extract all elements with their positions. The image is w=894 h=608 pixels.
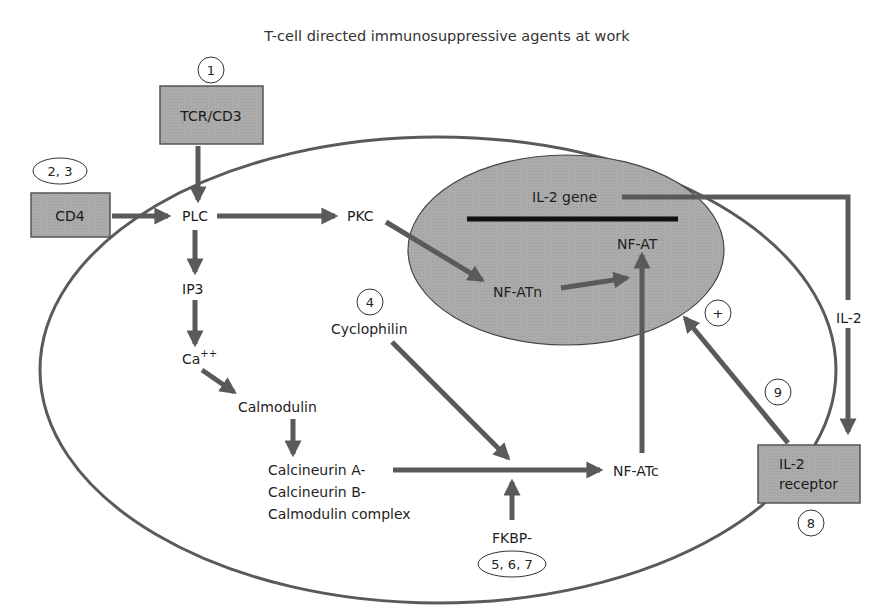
node-ca: Ca++ [182, 348, 217, 367]
svg-text:1: 1 [207, 63, 215, 78]
svg-text:5, 6, 7: 5, 6, 7 [491, 557, 532, 572]
node-calcineurin-3: Calmodulin complex [268, 506, 411, 522]
immunosuppression-pathway-diagram: T-cell directed immunosuppressive agents… [0, 0, 894, 608]
node-fkbp: FKBP- [492, 530, 532, 546]
il2-receptor-box: IL-2 receptor [758, 445, 860, 503]
node-nfatn: NF-ATn [493, 284, 542, 300]
tcr-cd3-box: TCR/CD3 [160, 86, 263, 144]
node-ca-superscript: ++ [200, 348, 217, 359]
svg-text:+: + [713, 306, 724, 321]
cd4-label: CD4 [55, 208, 85, 224]
il2-receptor-label-1: IL-2 [779, 456, 805, 472]
cd4-box: CD4 [31, 193, 110, 237]
arrow-cyclophilin-to-complex [392, 342, 508, 458]
node-calmodulin: Calmodulin [238, 399, 317, 415]
node-ip3: IP3 [182, 281, 203, 297]
diagram-title: T-cell directed immunosuppressive agents… [263, 28, 630, 44]
marker-2-3: 2, 3 [33, 158, 87, 184]
node-nfat: NF-AT [617, 236, 658, 252]
marker-8: 8 [798, 510, 824, 536]
marker-9: 9 [765, 379, 791, 405]
node-pkc: PKC [347, 208, 374, 224]
tcr-cd3-label: TCR/CD3 [179, 108, 241, 124]
marker-plus: + [705, 300, 731, 326]
node-il2-gene: IL-2 gene [532, 189, 597, 205]
node-ca-base: Ca [182, 351, 200, 367]
node-plc: PLC [182, 208, 208, 224]
svg-text:9: 9 [774, 385, 782, 400]
node-il2: IL-2 [836, 310, 862, 326]
node-calcineurin-1: Calcineurin A- [268, 462, 365, 478]
node-nfatc: NF-ATc [613, 463, 659, 479]
node-cyclophilin: Cyclophilin [331, 321, 408, 337]
arrow-ca-to-calmodulin [202, 370, 234, 392]
marker-5-6-7: 5, 6, 7 [478, 551, 546, 577]
marker-1: 1 [198, 57, 224, 83]
svg-text:8: 8 [807, 516, 815, 531]
node-calcineurin-2: Calcineurin B- [268, 484, 366, 500]
svg-text:2, 3: 2, 3 [48, 164, 73, 179]
nucleus [408, 155, 724, 345]
il2-receptor-label-2: receptor [779, 476, 838, 492]
marker-4: 4 [357, 289, 383, 315]
svg-text:4: 4 [366, 295, 374, 310]
